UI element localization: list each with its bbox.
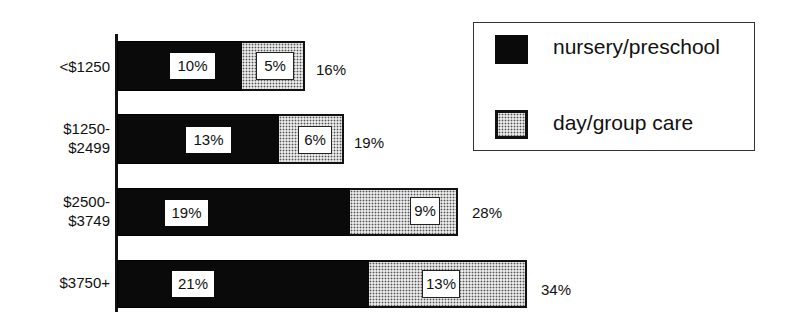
category-label: $1250- $2499 xyxy=(10,119,110,157)
legend-label: day/group care xyxy=(553,111,693,135)
legend-swatch-solid-icon xyxy=(495,35,528,64)
total-label: 34% xyxy=(541,281,571,298)
legend: nursery/preschool day/group care xyxy=(473,22,755,151)
bar-value-label: 19% xyxy=(165,200,208,226)
category-label: $3750+ xyxy=(10,273,110,292)
legend-swatch-dotted-icon xyxy=(495,110,528,139)
bar-value-label: 13% xyxy=(422,270,460,298)
category-label: <$1250 xyxy=(10,57,110,76)
total-label: 28% xyxy=(472,204,502,221)
legend-label: nursery/preschool xyxy=(553,35,720,59)
category-label-line: <$1250 xyxy=(10,57,110,76)
bar-value-label: 9% xyxy=(410,197,440,225)
category-label-line: $2499 xyxy=(10,138,110,157)
bar-nursery-preschool xyxy=(117,260,370,308)
category-label-line: $1250- xyxy=(10,119,110,138)
total-label: 16% xyxy=(316,61,346,78)
bar-value-label: 6% xyxy=(298,126,332,154)
bar-nursery-preschool xyxy=(117,188,351,236)
total-label: 19% xyxy=(354,134,384,151)
category-label: $2500- $3749 xyxy=(10,192,110,230)
bar-value-label: 5% xyxy=(256,52,294,80)
category-label-line: $3749 xyxy=(10,211,110,230)
bar-value-label: 21% xyxy=(172,271,214,297)
category-label-line: $3750+ xyxy=(10,273,110,292)
bar-value-label: 10% xyxy=(170,53,215,79)
category-label-line: $2500- xyxy=(10,192,110,211)
bar-value-label: 13% xyxy=(186,127,231,153)
bar-day-group-care xyxy=(350,188,458,236)
